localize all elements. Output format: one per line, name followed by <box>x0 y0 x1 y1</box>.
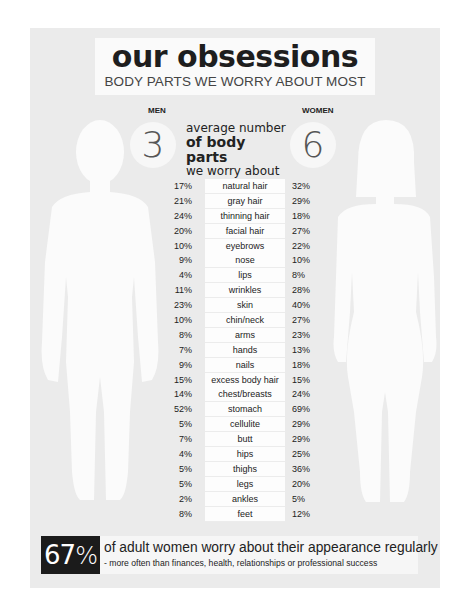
table-row: 15%excess body hair15% <box>160 373 310 388</box>
men-percent: 17% <box>160 179 192 194</box>
body-part: cellulite <box>205 417 285 432</box>
table-row: 5%legs20% <box>160 477 310 492</box>
men-percent: 8% <box>160 328 192 343</box>
table-row: 14%chest/breasts24% <box>160 387 310 402</box>
male-silhouette-icon <box>30 112 165 512</box>
table-row: 5%thighs36% <box>160 462 310 477</box>
men-percent: 9% <box>160 253 192 268</box>
men-percent: 14% <box>160 387 192 402</box>
women-average-bubble: 6 <box>290 122 336 168</box>
table-row: 8%feet12% <box>160 507 310 522</box>
body-part: butt <box>205 432 285 447</box>
stat-sub-text: - more often than finances, health, rela… <box>104 558 377 568</box>
body-part: stomach <box>205 402 285 417</box>
women-percent: 29% <box>292 432 322 447</box>
women-percent: 28% <box>292 283 322 298</box>
women-percent: 27% <box>292 313 322 328</box>
table-row: 8%arms23% <box>160 328 310 343</box>
men-average-bubble: 3 <box>130 122 176 168</box>
table-row: 7%butt29% <box>160 432 310 447</box>
women-percent: 10% <box>292 253 322 268</box>
body-part: chest/breasts <box>205 387 285 402</box>
women-percent: 8% <box>292 268 322 283</box>
table-row: 10%chin/neck27% <box>160 313 310 328</box>
table-row: 21%gray hair29% <box>160 194 310 209</box>
body-part: nose <box>205 253 285 268</box>
table-row: 10%eyebrows22% <box>160 239 310 254</box>
body-part: skin <box>205 298 285 313</box>
men-percent: 15% <box>160 373 192 388</box>
table-row: 52%stomach69% <box>160 402 310 417</box>
men-percent: 9% <box>160 358 192 373</box>
table-row: 7%hands13% <box>160 343 310 358</box>
stat-number: 67 <box>44 540 75 570</box>
men-percent: 10% <box>160 313 192 328</box>
men-percent: 24% <box>160 209 192 224</box>
men-percent: 5% <box>160 477 192 492</box>
table-row: 23%skin40% <box>160 298 310 313</box>
body-part: natural hair <box>205 179 285 194</box>
title-box: our obsessions BODY PARTS WE WORRY ABOUT… <box>95 38 375 95</box>
body-part: lips <box>205 268 285 283</box>
table-row: 5%cellulite29% <box>160 417 310 432</box>
men-percent: 5% <box>160 462 192 477</box>
body-part: feet <box>205 507 285 522</box>
body-part: legs <box>205 477 285 492</box>
stat-badge: 67% <box>41 536 100 574</box>
women-percent: 69% <box>292 402 322 417</box>
men-percent: 52% <box>160 402 192 417</box>
women-percent: 29% <box>292 194 322 209</box>
men-percent: 4% <box>160 268 192 283</box>
women-percent: 36% <box>292 462 322 477</box>
women-percent: 40% <box>292 298 322 313</box>
page-subtitle: BODY PARTS WE WORRY ABOUT MOST <box>95 74 375 90</box>
body-part: eyebrows <box>205 239 285 254</box>
men-percent: 4% <box>160 447 192 462</box>
body-part: hips <box>205 447 285 462</box>
body-part: facial hair <box>205 224 285 239</box>
body-part: chin/neck <box>205 313 285 328</box>
men-percent: 7% <box>160 432 192 447</box>
women-percent: 27% <box>292 224 322 239</box>
men-percent: 7% <box>160 343 192 358</box>
women-percent: 29% <box>292 417 322 432</box>
table-row: 4%hips25% <box>160 447 310 462</box>
women-percent: 32% <box>292 179 322 194</box>
men-percent: 23% <box>160 298 192 313</box>
men-percent: 10% <box>160 239 192 254</box>
table-row: 24%thinning hair18% <box>160 209 310 224</box>
page-title: our obsessions <box>95 40 375 74</box>
women-percent: 22% <box>292 239 322 254</box>
body-part: excess body hair <box>205 373 285 388</box>
women-percent: 25% <box>292 447 322 462</box>
men-percent: 5% <box>160 417 192 432</box>
men-percent: 21% <box>160 194 192 209</box>
men-percent: 8% <box>160 507 192 522</box>
body-part: nails <box>205 358 285 373</box>
women-percent: 18% <box>292 358 322 373</box>
average-caption-line2: of body parts <box>186 135 290 165</box>
men-label: MEN <box>148 106 166 115</box>
women-percent: 20% <box>292 477 322 492</box>
table-row: 4%lips8% <box>160 268 310 283</box>
body-part: thighs <box>205 462 285 477</box>
table-row: 20%facial hair27% <box>160 224 310 239</box>
women-percent: 24% <box>292 387 322 402</box>
table-row: 2%ankles5% <box>160 492 310 507</box>
average-caption-line3: we worry about <box>186 165 290 178</box>
body-part: wrinkles <box>205 283 285 298</box>
body-part: ankles <box>205 492 285 507</box>
table-row: 9%nails18% <box>160 358 310 373</box>
women-percent: 5% <box>292 492 322 507</box>
women-label: WOMEN <box>302 106 334 115</box>
table-row: 9%nose10% <box>160 253 310 268</box>
body-part: hands <box>205 343 285 358</box>
men-percent: 11% <box>160 283 192 298</box>
stat-percent-sign: % <box>75 542 97 570</box>
men-percent: 2% <box>160 492 192 507</box>
women-percent: 23% <box>292 328 322 343</box>
body-part: thinning hair <box>205 209 285 224</box>
table-row: 17%natural hair32% <box>160 179 310 194</box>
table-row: 11%wrinkles28% <box>160 283 310 298</box>
women-percent: 12% <box>292 507 322 522</box>
